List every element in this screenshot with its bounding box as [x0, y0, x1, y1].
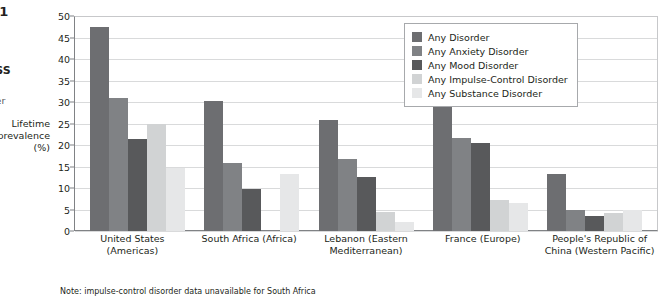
- legend-swatch-any-anxiety-disorder: [412, 46, 422, 56]
- y-tick-label: 30: [58, 97, 70, 108]
- bar: [395, 222, 414, 231]
- y-tick-label: 35: [58, 75, 70, 86]
- bar-group: [80, 16, 194, 231]
- bar: [128, 139, 147, 231]
- y-tick-label: 45: [58, 32, 70, 43]
- legend-item: Any Mood Disorder: [412, 58, 568, 72]
- bar: [166, 168, 185, 231]
- legend-label: Any Mood Disorder: [428, 60, 518, 71]
- legend-swatch-any-impulse-control-disorder: [412, 74, 422, 84]
- y-tick-label: 40: [58, 54, 70, 65]
- figure-number: .1: [0, 4, 8, 19]
- bar: [452, 138, 471, 231]
- y-tick-label: 50: [58, 11, 70, 22]
- legend-swatch-any-mood-disorder: [412, 60, 422, 70]
- bar: [623, 210, 642, 231]
- y-tick-label: 20: [58, 140, 70, 151]
- x-axis-label: People's Republic of China (Western Paci…: [541, 233, 658, 256]
- bar: [376, 212, 395, 231]
- bar: [280, 174, 299, 231]
- bar: [585, 216, 604, 231]
- bar: [490, 200, 509, 231]
- margin-column: .1 OSS sler Lifetime prevalence (%): [0, 0, 52, 303]
- gridline: [75, 231, 658, 232]
- bar: [90, 27, 109, 231]
- legend-label: Any Impulse-Control Disorder: [428, 74, 568, 85]
- legend-label: Any Anxiety Disorder: [428, 46, 528, 57]
- bar: [566, 210, 585, 231]
- y-axis: 05101520253035404550: [52, 16, 74, 231]
- legend-swatch-any-disorder: [412, 32, 422, 42]
- x-axis-label: South Africa (Africa): [191, 233, 308, 256]
- y-axis-title: Lifetime prevalence (%): [0, 118, 50, 154]
- bar-group: [194, 16, 308, 231]
- source-heading: OSS: [0, 64, 11, 77]
- bar: [147, 124, 166, 232]
- y-tick-label: 25: [58, 118, 70, 129]
- bar: [204, 101, 223, 231]
- chart-legend: Any Disorder Any Anxiety Disorder Any Mo…: [404, 23, 578, 107]
- bar: [319, 120, 338, 231]
- source-subtext: sler: [0, 95, 5, 106]
- bar: [471, 143, 490, 231]
- bar: [509, 203, 528, 231]
- chart-note: Note: impulse-control disorder data unav…: [60, 287, 316, 296]
- bar: [357, 177, 376, 231]
- legend-swatch-any-substance-disorder: [412, 88, 422, 98]
- legend-item: Any Disorder: [412, 30, 568, 44]
- x-axis-label: Lebanon (Eastern Mediterranean): [308, 233, 425, 256]
- y-tick-label: 15: [58, 161, 70, 172]
- legend-item: Any Substance Disorder: [412, 86, 568, 100]
- bar: [547, 174, 566, 231]
- y-tick-label: 10: [58, 183, 70, 194]
- legend-item: Any Anxiety Disorder: [412, 44, 568, 58]
- x-axis-label: France (Europe): [424, 233, 541, 256]
- bar: [604, 213, 623, 231]
- legend-label: Any Substance Disorder: [428, 88, 542, 99]
- legend-item: Any Impulse-Control Disorder: [412, 72, 568, 86]
- x-axis-label: United States (Americas): [74, 233, 191, 256]
- bar: [109, 98, 128, 231]
- bar: [338, 159, 357, 231]
- bar: [223, 163, 242, 231]
- bar: [242, 189, 261, 231]
- legend-label: Any Disorder: [428, 32, 489, 43]
- x-axis-labels: United States (Americas)South Africa (Af…: [74, 233, 658, 256]
